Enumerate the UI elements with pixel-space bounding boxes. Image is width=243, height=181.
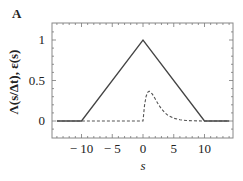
x-tick-label: 10 — [198, 141, 211, 157]
y-tick-label: 0 — [39, 113, 46, 129]
y-tick-label: 1 — [39, 32, 46, 48]
x-tick-label: 0 — [140, 141, 147, 157]
x-tick-label: 5 — [171, 141, 178, 157]
x-tick-label: − 10 — [70, 141, 94, 157]
series-lambda-line — [57, 40, 229, 121]
y-axis-label: Λ(s/Δt), ε(s) — [6, 50, 22, 115]
y-tick-label: 0.5 — [29, 73, 45, 89]
series-epsilon-dashed-line — [57, 91, 229, 121]
x-tick-label: − 5 — [104, 141, 121, 157]
panel-label: A — [12, 6, 21, 22]
x-axis-label: s — [140, 158, 145, 174]
chart-container: A Λ(s/Δt), ε(s) s − 10− 5051000.51 — [0, 0, 243, 181]
